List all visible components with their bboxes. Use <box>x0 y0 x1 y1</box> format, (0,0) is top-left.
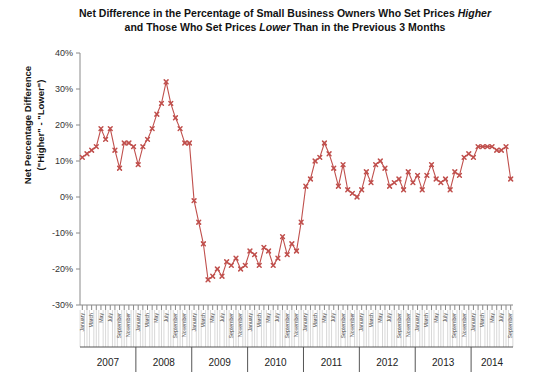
x-axis-month-label: November <box>461 313 467 337</box>
y-axis-tick-label: 30% <box>55 84 73 94</box>
x-axis-month-label: May <box>321 313 327 323</box>
x-axis-month-label: September <box>172 313 178 339</box>
x-axis-month-label: July <box>498 313 504 323</box>
x-axis-month-label: May <box>433 313 439 323</box>
x-axis-month-label: November <box>293 313 299 337</box>
data-point-marker <box>229 264 233 268</box>
x-axis-month-label: January <box>358 313 364 332</box>
chart-page: Net Difference in the Percentage of Smal… <box>0 0 541 379</box>
x-axis-month-label: November <box>237 313 243 337</box>
x-axis-month-label: July <box>330 313 336 323</box>
data-point-marker <box>90 148 94 152</box>
x-axis-month-label: July <box>274 313 280 323</box>
x-axis-month-label: March <box>312 313 318 328</box>
x-axis-month-label: September <box>507 313 513 339</box>
x-axis-year-label: 2012 <box>376 357 399 368</box>
y-axis-tick-label: -30% <box>52 300 73 310</box>
x-axis-month-label: March <box>368 313 374 328</box>
y-axis-tick-label: 10% <box>55 156 73 166</box>
data-point-marker <box>378 159 382 163</box>
x-axis-year-label: 2007 <box>97 357 120 368</box>
y-axis-tick-label: -10% <box>52 228 73 238</box>
x-axis-month-label: September <box>451 313 457 339</box>
x-axis-month-label: May <box>489 313 495 323</box>
x-axis-month-label: September <box>396 313 402 339</box>
x-axis-month-label: March <box>200 313 206 328</box>
x-axis-month-label: May <box>265 313 271 323</box>
x-axis-month-label: July <box>442 313 448 323</box>
x-axis-month-label: January <box>79 313 85 332</box>
y-axis-tick-label: 20% <box>55 120 73 130</box>
data-point-marker <box>85 152 89 156</box>
line-chart-svg: 40%30%20%10%0%-10%-20%-30% JanuaryMarchM… <box>0 0 541 379</box>
x-axis-month-label: November <box>349 313 355 337</box>
x-axis-month-label: July <box>107 313 113 323</box>
x-axis-month-label: November <box>405 313 411 337</box>
data-point-marker <box>211 274 215 278</box>
x-axis-month-label: January <box>135 313 141 332</box>
y-axis-tick-label: 0% <box>60 192 73 202</box>
data-point-marker <box>355 195 359 199</box>
data-point-marker <box>467 152 471 156</box>
x-axis-month-label: September <box>340 313 346 339</box>
y-axis-ticks: 40%30%20%10%0%-10%-20%-30% <box>52 48 80 310</box>
x-axis-month-label: May <box>377 313 383 323</box>
x-axis-month-label: January <box>191 313 197 332</box>
x-axis-year-label: 2010 <box>264 357 287 368</box>
x-axis-year-label: 2013 <box>432 357 455 368</box>
x-axis-month-label: March <box>88 313 94 328</box>
x-axis-month-label: July <box>386 313 392 323</box>
x-axis-year-label: 2011 <box>321 357 343 368</box>
x-axis-month-label: November <box>181 313 187 337</box>
x-axis-month-label: May <box>98 313 104 323</box>
x-axis-month-label: January <box>470 313 476 332</box>
data-point-marker <box>392 181 396 185</box>
series-markers <box>80 80 512 282</box>
x-axis-month-label: January <box>414 313 420 332</box>
x-axis-ticks <box>82 305 510 310</box>
x-axis-year-label: 2008 <box>153 357 176 368</box>
x-axis-month-label: July <box>219 313 225 323</box>
data-point-marker <box>439 181 443 185</box>
x-axis-month-label: May <box>209 313 215 323</box>
data-point-marker <box>350 192 354 196</box>
x-axis-month-label: November <box>125 313 131 337</box>
data-point-marker <box>80 156 84 160</box>
x-axis-year-label: 2009 <box>209 357 232 368</box>
x-axis-year-labels: 20072008200920102011201220132014 <box>97 357 504 368</box>
x-axis-month-label: March <box>423 313 429 328</box>
x-axis-month-label: September <box>228 313 234 339</box>
x-axis-month-label: January <box>302 313 308 332</box>
x-axis-month-label: September <box>284 313 290 339</box>
x-axis-year-label: 2014 <box>481 357 504 368</box>
x-axis-month-label: May <box>153 313 159 323</box>
x-axis-month-label: September <box>116 313 122 339</box>
y-axis-tick-label: 40% <box>55 48 73 58</box>
x-axis-month-label: July <box>163 313 169 323</box>
x-axis-month-labels: JanuaryMarchMayJulySeptemberNovemberJanu… <box>79 310 513 347</box>
y-axis-tick-label: -20% <box>52 264 73 274</box>
x-axis-month-label: March <box>144 313 150 328</box>
x-axis-month-label: January <box>247 313 253 332</box>
x-axis-month-label: March <box>256 313 262 328</box>
x-axis-month-label: March <box>479 313 485 328</box>
data-point-marker <box>215 267 219 271</box>
